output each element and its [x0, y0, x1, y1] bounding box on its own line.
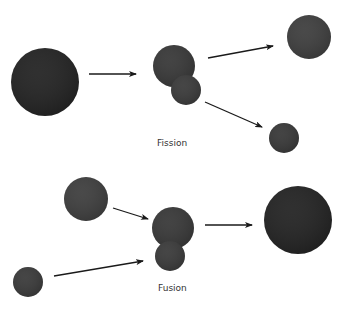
splitting-nucleus-small-shading: [171, 75, 201, 105]
fusing-nucleus-small-shading: [155, 241, 185, 271]
fusion-arrow-2-icon: [54, 261, 143, 276]
daughter-nucleus-large-shading: [287, 15, 331, 59]
fission-fusion-diagram: Fission Fusion: [0, 0, 341, 311]
fission-arrow-2-icon: [208, 46, 273, 58]
fusion-arrow-1-icon: [113, 208, 148, 219]
parent-nucleus-shading: [11, 48, 79, 116]
reactant-nucleus-small-shading: [13, 267, 43, 297]
product-nucleus-shading: [264, 186, 332, 254]
fission-label: Fission: [157, 138, 187, 148]
fission-arrow-3-icon: [205, 102, 262, 127]
fission-section: [11, 15, 331, 153]
diagram-graphic: [0, 0, 341, 311]
daughter-nucleus-small-shading: [269, 123, 299, 153]
reactant-nucleus-large-shading: [64, 177, 108, 221]
fusion-section: [13, 177, 332, 297]
fusion-label: Fusion: [158, 283, 187, 293]
